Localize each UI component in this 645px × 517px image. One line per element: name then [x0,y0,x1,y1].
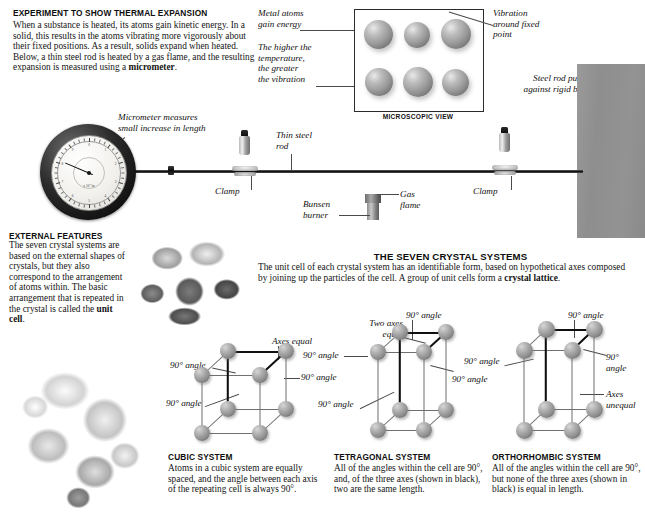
experiment-body: When a substance is heated, its atoms ga… [13,20,257,73]
lattice-edge [399,333,401,411]
cubic-caption: CUBIC SYSTEM Atoms in a cubic system are… [168,452,318,495]
dial-tick [73,202,75,205]
tetragonal-lattice-diagram [366,328,458,446]
dial-tick [104,202,106,205]
external-features-body: The seven crystal systems are based on t… [9,240,127,325]
clamp-right-jaw [492,165,518,170]
dial-tick [107,198,110,202]
label-vibration: Vibrationaround fixedpoint [493,8,569,40]
tetragonal-caption-body: All of the angles within the cell are 90… [334,463,486,495]
leader-gas-flame [377,194,399,195]
cubic-annotation-angle-bottom-left: 90° angle [166,398,202,409]
mineral-specimen-photo [130,227,254,331]
dial-tick [119,182,123,184]
label-metal-atoms: Metal atomsgain energy [258,8,332,29]
lattice-node [438,324,454,340]
dial-tick [94,138,95,141]
label-gas-flame: Gasflame [400,189,440,210]
lattice-node [278,343,294,359]
leader-orthorhombic-axes-unequal [580,394,604,395]
dial-number: 2 [115,162,117,166]
lattice-node [392,402,408,418]
dial-tick [112,196,114,198]
tetragonal-annotation-angle-left-upper: 90° angle [303,350,339,361]
orthorhombic-lattice-diagram [512,326,602,446]
dial-number: 9 [72,148,74,152]
microscopic-view-caption: MICROSCOPIC VIEW [354,113,482,120]
dial-tick [119,162,123,164]
rod-collar [168,166,174,175]
lattice-node [416,422,432,438]
atom-sphere [404,22,430,48]
dial-tick [78,204,80,207]
leader-metal-atoms [300,30,355,31]
lattice-node [194,425,210,441]
micrometer-dial: 0123456789 x 10-6m [40,124,136,220]
dial-tick [64,196,66,198]
bunsen-burner-collar [365,194,381,203]
lattice-node [586,401,603,418]
orthorhombic-caption-title: ORTHORHOMBIC SYSTEM [492,452,644,462]
tetragonal-annotation-angle-left-lower: 90° angle [318,399,354,410]
clamp-left-body [239,136,250,155]
atom-sphere [364,20,393,49]
label-higher-temperature: The higher thetemperature,the greaterthe… [258,42,336,84]
dial-tick [94,205,95,208]
lattice-node [564,422,581,439]
lattice-node [564,342,581,359]
rigid-block [577,64,645,238]
experiment-heading-text: EXPERIMENT TO SHOW THERMAL EXPANSION [13,8,263,18]
atom-sphere [442,69,469,96]
experiment-heading: EXPERIMENT TO SHOW THERMAL EXPANSION [13,8,263,18]
lattice-node [370,422,386,438]
crystal-systems-intro: The unit cell of each crystal system has… [258,262,626,283]
dial-tick [99,204,101,207]
lattice-edge [424,353,425,431]
bunsen-burner-base [367,203,379,220]
label-thin-steel-rod: Thin steelrod [276,130,328,151]
dial-number: 1 [105,148,107,152]
dial-tick [118,187,121,189]
crystal-systems-heading-text: THE SEVEN CRYSTAL SYSTEMS [374,251,527,262]
tetragonal-caption-title: TETRAGONAL SYSTEM [334,452,486,462]
cubic-caption-body: Atoms in a cubic system are equally spac… [168,463,318,495]
lattice-node [220,343,236,359]
leader-tetragonal-angle-top [412,320,413,340]
lattice-edge [545,330,547,410]
lattice-node [194,367,210,383]
dial-tick [84,138,85,141]
lattice-node [516,342,533,359]
lattice-edge [594,330,595,410]
lattice-edge [378,353,379,431]
lattice-node [438,402,454,418]
lattice-node [370,344,386,360]
dial-number: 8 [62,162,64,166]
dial-tick [115,152,118,154]
orthorhombic-annotation-angle-right: 90°angle [606,352,644,373]
dial-tick [73,142,75,145]
lattice-edge [524,351,525,431]
label-micrometer: Micrometer measuressmall increase in len… [118,112,250,133]
dial-tick [122,173,125,174]
tetragonal-annotation-angle-top: 90° angle [406,310,442,321]
cubic-caption-title: CUBIC SYSTEM [168,452,318,462]
dial-tick [61,152,64,154]
lattice-node [392,324,408,340]
lattice-node [538,321,555,338]
leader-bunsen-burner [339,215,370,216]
lattice-node [538,401,555,418]
lattice-edge [572,351,573,431]
dial-tick [89,138,90,142]
lattice-node [278,401,294,417]
dial-tick [56,162,60,164]
orthorhombic-annotation-axes-unequal: Axesunequal [606,389,644,410]
cubic-annotation-angle-right: 90° angle [301,372,337,383]
lattice-node [252,425,268,441]
dial-tick [118,157,121,159]
atom-sphere [403,67,433,97]
tetragonal-annotation-angle-right: 90° angle [452,374,488,385]
lattice-node [416,344,432,360]
dial-tick [55,167,58,168]
label-bunsen-burner: Bunsenburner [303,199,355,220]
dial-tick [99,140,101,143]
